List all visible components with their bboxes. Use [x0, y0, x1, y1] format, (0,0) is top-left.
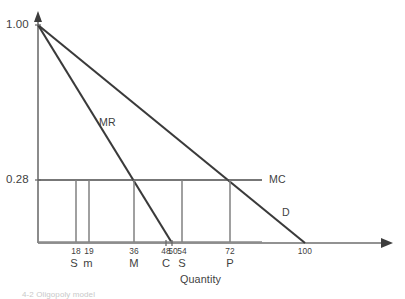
x-tick-value-36: 36	[126, 247, 142, 255]
marginal-revenue-label: MR	[99, 117, 116, 128]
x-axis-title: Quantity	[180, 274, 221, 285]
x-axis-arrowhead	[381, 238, 393, 248]
x-category-label-M: M	[126, 258, 142, 269]
x-tick-value-100: 100	[297, 247, 313, 255]
marginal-cost-label: MC	[269, 174, 286, 185]
x-category-label-C: C	[158, 258, 174, 269]
demand-label: D	[282, 207, 290, 218]
figure-caption: 4-2 Oligopoly model	[22, 291, 95, 299]
y-axis-arrowhead	[34, 11, 42, 22]
y-axis-label-top: 1.00	[6, 19, 29, 31]
x-tick-value-72: 72	[222, 247, 238, 255]
x-tick-value-19: 19	[81, 247, 97, 255]
y-axis-label-mc: 0.28	[6, 174, 29, 186]
x-category-label-m: m	[80, 258, 96, 269]
x-category-label-S-right: S	[174, 258, 190, 269]
demand-curve	[38, 25, 305, 243]
marginal-revenue-curve	[38, 25, 172, 243]
x-tick-value-54: 54	[174, 247, 190, 255]
x-category-label-P: P	[222, 258, 238, 269]
